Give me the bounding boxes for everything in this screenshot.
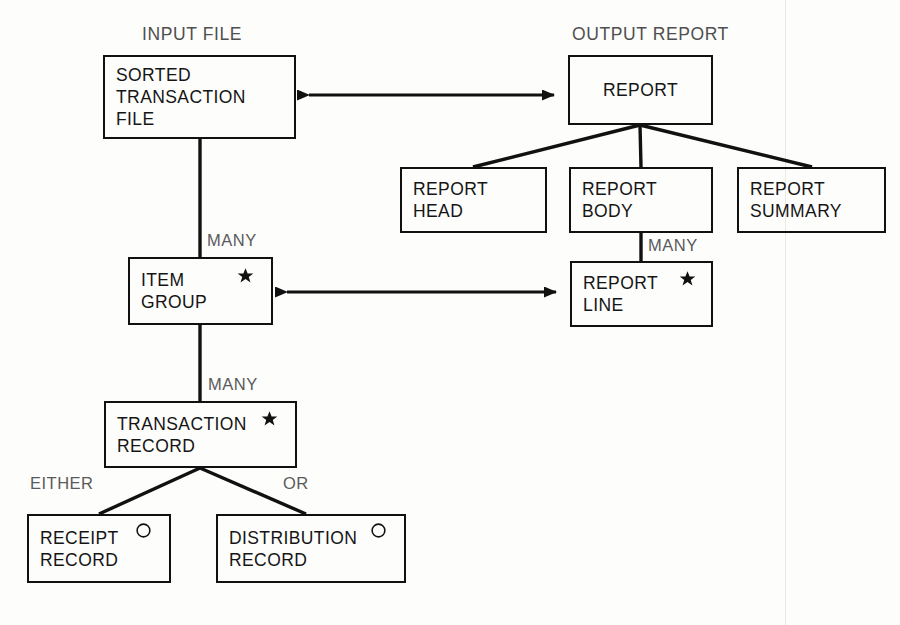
entity-box-label-report-line: REPORT LINE [583,272,658,316]
cardinality-label-many-report-line: MANY [648,236,698,255]
entity-box-transaction-record[interactable]: TRANSACTION RECORD [104,401,297,468]
entity-box-label-report-summary: REPORT SUMMARY [750,178,842,222]
entity-box-report[interactable]: REPORT [568,55,713,125]
entity-box-label-report: REPORT [570,79,711,101]
cardinality-label-many-transaction-record: MANY [208,375,258,394]
entity-box-label-sorted-transaction-file: SORTED TRANSACTION FILE [116,64,246,130]
group-title-output-report: OUTPUT REPORT [572,24,729,45]
selection-circle-icon [370,522,387,539]
entity-box-item-group[interactable]: ITEM GROUP [128,257,273,325]
entity-box-label-transaction-record: TRANSACTION RECORD [117,413,247,457]
entity-box-label-receipt-record: RECEIPT RECORD [40,527,119,571]
entity-box-report-summary[interactable]: REPORT SUMMARY [737,167,886,233]
connector-report-to-report-body [640,125,641,167]
cardinality-label-either-receipt: EITHER [30,474,94,493]
connector-transaction-record-to-receipt [99,468,200,514]
entity-box-label-distribution-record: DISTRIBUTION RECORD [229,527,357,571]
connector-report-to-report-head [473,125,640,167]
iteration-star-icon [237,267,254,284]
entity-box-receipt-record[interactable]: RECEIPT RECORD [27,514,171,583]
entity-box-report-head[interactable]: REPORT HEAD [400,167,547,233]
entity-box-sorted-transaction-file[interactable]: SORTED TRANSACTION FILE [103,55,296,139]
entity-box-label-report-body: REPORT BODY [582,178,657,222]
entity-box-report-body[interactable]: REPORT BODY [569,167,713,233]
entity-box-label-item-group: ITEM GROUP [141,269,207,313]
entity-box-label-report-head: REPORT HEAD [413,178,488,222]
diagram-canvas: SORTED TRANSACTION FILEREPORTREPORT HEAD… [0,0,900,625]
iteration-star-icon [679,270,696,287]
entity-box-report-line[interactable]: REPORT LINE [570,261,713,327]
entity-box-distribution-record[interactable]: DISTRIBUTION RECORD [216,514,406,583]
connector-report-to-report-summary [640,125,812,167]
iteration-star-icon [261,410,278,427]
group-title-input-file: INPUT FILE [142,24,242,45]
selection-circle-icon [135,522,152,539]
cardinality-label-or-distribution: OR [283,474,309,493]
cardinality-label-many-item-group: MANY [207,231,257,250]
